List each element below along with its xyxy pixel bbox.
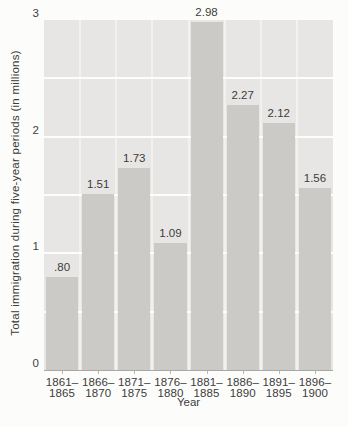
bar-column: 2.12 [261, 20, 297, 370]
x-tick-label-line1: 1861– [44, 377, 80, 388]
bar [299, 188, 331, 370]
x-axis-tick-labels: 1861–18651866–18701871–18751876–18801881… [44, 370, 333, 398]
y-tick-label: 2 [33, 124, 39, 137]
x-tick-label-line1: 1891– [261, 377, 297, 388]
x-tick-label-line1: 1876– [152, 377, 188, 388]
x-tick-label: 1861–1865 [44, 370, 80, 398]
x-tick-label: 1866–1870 [80, 370, 116, 398]
bar [154, 243, 186, 370]
bar [46, 277, 78, 370]
bar [263, 123, 295, 370]
bar-value-label: 2.98 [179, 6, 235, 19]
bar-column: 1.73 [116, 20, 152, 370]
x-tick-label-line1: 1886– [225, 377, 261, 388]
x-tick-label: 1886–1890 [225, 370, 261, 398]
x-axis-baseline [44, 370, 333, 371]
bar [227, 105, 259, 370]
y-tick-label: 0 [33, 357, 39, 370]
bar-column: 1.56 [297, 20, 333, 370]
x-tick-label-line1: 1896– [297, 377, 333, 388]
bar-column: 1.51 [80, 20, 116, 370]
bar [82, 194, 114, 370]
bar-column: 2.98 [189, 20, 225, 370]
x-tick-label-line1: 1881– [189, 377, 225, 388]
x-tick-label: 1876–1880 [152, 370, 188, 398]
plot-area: .801.511.731.092.982.272.121.56 [44, 20, 333, 370]
x-tick-label: 1881–1885 [189, 370, 225, 398]
immigration-bar-chart-figure: Total immigration during five-year perio… [0, 0, 348, 426]
x-axis-title: Year [44, 396, 333, 408]
bar-column: 1.09 [152, 20, 188, 370]
y-tick-label: 1 [33, 240, 39, 253]
bar-column: 2.27 [225, 20, 261, 370]
x-tick-label-line1: 1866– [80, 377, 116, 388]
bar-columns: .801.511.731.092.982.272.121.56 [44, 20, 333, 370]
bar-column: .80 [44, 20, 80, 370]
bar-value-label: 1.56 [287, 172, 343, 185]
x-tick-label-line1: 1871– [116, 377, 152, 388]
bar [118, 168, 150, 370]
x-tick-label: 1896–1900 [297, 370, 333, 398]
bar [191, 22, 223, 370]
y-axis-tick-labels: 0123 [0, 0, 39, 426]
y-tick-label: 3 [33, 7, 39, 20]
x-tick-label: 1891–1895 [261, 370, 297, 398]
x-tick-label: 1871–1875 [116, 370, 152, 398]
